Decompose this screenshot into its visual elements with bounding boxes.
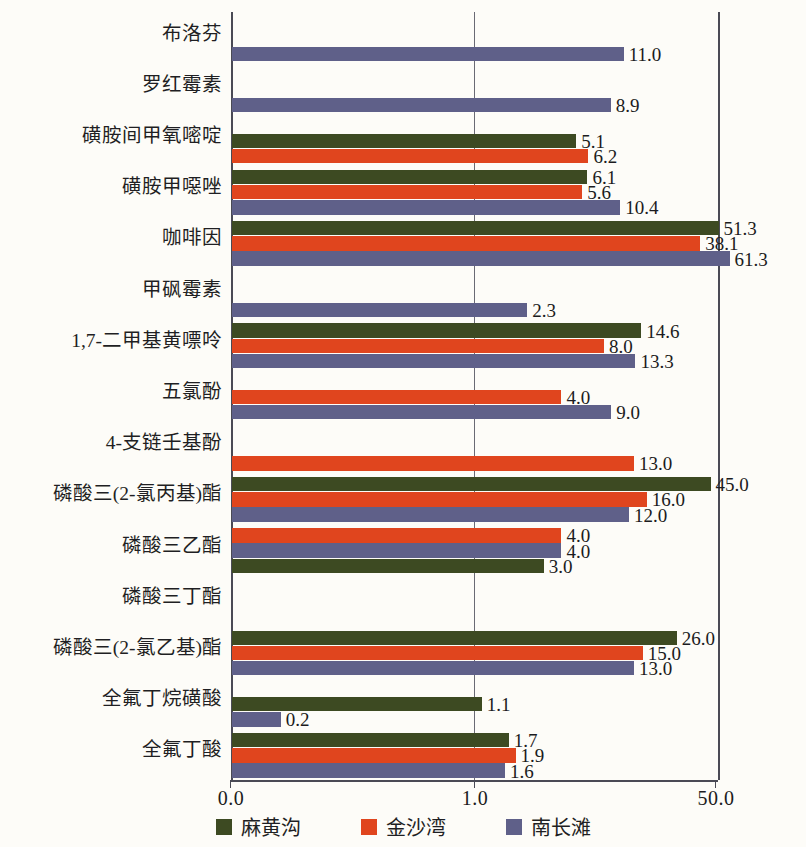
category-label: 磷酸三乙酯: [0, 536, 222, 556]
bar-金沙湾: [232, 646, 643, 661]
bar-value-label: 3.0: [549, 556, 573, 575]
bar-南长滩: [232, 354, 635, 369]
bar-金沙湾: [232, 149, 588, 164]
legend-item[interactable]: 金沙湾: [361, 812, 446, 841]
bar-麻黄沟: [232, 221, 719, 236]
category-label: 布洛芬: [0, 24, 222, 44]
legend-swatch-icon: [361, 819, 377, 835]
legend-label: 麻黄沟: [241, 812, 301, 841]
bar-南长滩: [232, 543, 561, 558]
bar-南长滩: [232, 251, 730, 266]
chart-legend: 麻黄沟金沙湾南长滩: [0, 812, 806, 841]
bar-value-label: 6.2: [593, 147, 617, 166]
bar-南长滩: [232, 763, 505, 778]
category-label: 五氯酚: [0, 382, 222, 402]
bar-value-label: 1.6: [510, 761, 534, 780]
bar-value-label: 14.6: [646, 321, 679, 340]
category-label: 全氟丁烷磺酸: [0, 689, 222, 709]
x-tick-label: 50.0: [698, 787, 735, 810]
bar-金沙湾: [232, 748, 516, 763]
bar-麻黄沟: [232, 631, 677, 646]
bar-value-label: 38.1: [705, 234, 738, 253]
bar-金沙湾: [232, 456, 634, 471]
bar-麻黄沟: [232, 170, 587, 185]
legend-label: 金沙湾: [386, 812, 446, 841]
bar-南长滩: [232, 303, 527, 318]
bar-value-label: 26.0: [682, 628, 715, 647]
bar-南长滩: [232, 507, 629, 522]
x-tick-label: 0.0: [218, 787, 245, 810]
category-label: 4-支链壬基酚: [0, 433, 222, 453]
bar-麻黄沟: [232, 697, 482, 712]
bar-value-label: 11.0: [629, 44, 662, 63]
bar-value-label: 5.6: [587, 183, 611, 202]
bar-value-label: 13.0: [639, 454, 672, 473]
legend-item[interactable]: 南长滩: [506, 812, 591, 841]
category-label: 磷酸三(2-氯丙基)酯: [0, 485, 222, 505]
bar-value-label: 9.0: [616, 403, 640, 422]
category-label: 磷酸三丁酯: [0, 587, 222, 607]
bar-value-label: 8.0: [609, 336, 633, 355]
bar-value-label: 13.0: [639, 659, 672, 678]
legend-label: 南长滩: [531, 812, 591, 841]
bar-value-label: 61.3: [735, 249, 768, 268]
bar-南长滩: [232, 47, 624, 62]
legend-item[interactable]: 麻黄沟: [216, 812, 301, 841]
bar-金沙湾: [232, 339, 604, 354]
category-label: 罗红霉素: [0, 75, 222, 95]
bar-麻黄沟: [232, 559, 544, 574]
category-label: 全氟丁酸: [0, 741, 222, 761]
bar-value-label: 45.0: [716, 475, 749, 494]
bar-南长滩: [232, 712, 281, 727]
category-label: 咖啡因: [0, 229, 222, 249]
bar-金沙湾: [232, 185, 582, 200]
category-label: 磺胺甲噁唑: [0, 177, 222, 197]
bar-南长滩: [232, 405, 611, 420]
bar-麻黄沟: [232, 477, 711, 492]
category-label: 甲砜霉素: [0, 280, 222, 300]
bar-南长滩: [232, 98, 611, 113]
bar-value-label: 2.3: [532, 300, 556, 319]
category-label: 磺胺间甲氧嘧啶: [0, 126, 222, 146]
bar-value-label: 1.1: [487, 695, 511, 714]
bar-金沙湾: [232, 492, 647, 507]
legend-swatch-icon: [506, 819, 522, 835]
x-tick-label: 1.0: [462, 787, 489, 810]
bar-value-label: 4.0: [566, 388, 590, 407]
bar-value-label: 0.2: [286, 710, 310, 729]
bar-南长滩: [232, 200, 620, 215]
bar-chart: 11.08.95.16.26.15.610.451.338.161.32.314…: [0, 0, 806, 847]
legend-swatch-icon: [216, 819, 232, 835]
bar-麻黄沟: [232, 733, 509, 748]
bar-value-label: 13.3: [640, 352, 673, 371]
bar-value-label: 8.9: [616, 96, 640, 115]
bar-金沙湾: [232, 390, 561, 405]
category-label: 磷酸三(2-氯乙基)酯: [0, 638, 222, 658]
bar-value-label: 12.0: [634, 505, 667, 524]
category-label: 1,7-二甲基黄嘌呤: [0, 331, 222, 351]
bar-麻黄沟: [232, 323, 641, 338]
bar-金沙湾: [232, 236, 700, 251]
bar-金沙湾: [232, 528, 561, 543]
bar-麻黄沟: [232, 134, 576, 149]
bar-value-label: 10.4: [625, 198, 658, 217]
bar-南长滩: [232, 661, 634, 676]
